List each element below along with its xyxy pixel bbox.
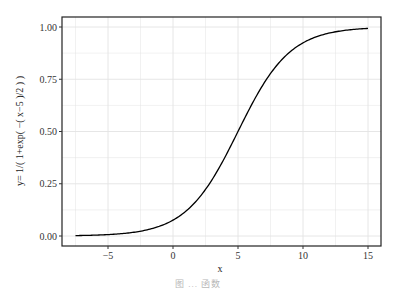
x-tick-label: 0 (171, 250, 176, 261)
x-axis-title: x (218, 263, 223, 274)
y-tick-label: 0.75 (40, 74, 58, 85)
grid-lines (62, 17, 381, 246)
y-tick-label: 0.50 (40, 126, 58, 137)
x-tick-label: 15 (363, 250, 373, 261)
y-axis-ticks: 0.000.250.500.751.00 (40, 22, 63, 242)
sigmoid-curve (76, 28, 369, 235)
y-tick-label: 1.00 (40, 22, 58, 33)
y-tick-label: 0.00 (40, 231, 58, 242)
x-tick-label: 10 (298, 250, 308, 261)
figure-caption: 图 ... 函数 (0, 277, 396, 290)
y-axis-title: y= 1/( 1+exp( −( x−5 )/2 ) ) (14, 76, 26, 186)
x-tick-label: −5 (103, 250, 114, 261)
x-axis-ticks: −5051015 (103, 246, 373, 261)
y-tick-label: 0.25 (40, 178, 58, 189)
x-tick-label: 5 (236, 250, 241, 261)
